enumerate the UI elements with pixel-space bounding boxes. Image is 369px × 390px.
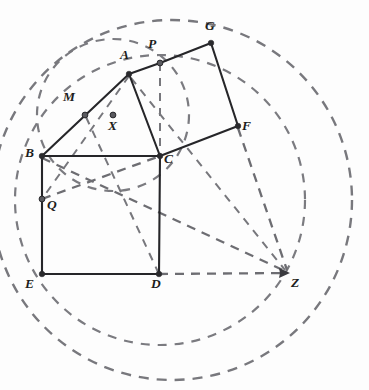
dot-P <box>157 60 163 66</box>
dot-F <box>235 123 241 129</box>
dot-Q <box>39 196 45 202</box>
dashed-B-Z <box>42 158 285 271</box>
dashed-A-Q <box>42 76 129 199</box>
label-point-P: P <box>148 37 156 51</box>
solid-edges-group <box>42 43 238 274</box>
label-point-C: C <box>164 152 173 166</box>
label-point-B: B <box>25 146 34 160</box>
geometry-figure: A B C D E F G M P Q X Z <box>0 0 369 390</box>
dot-A <box>126 71 132 77</box>
segment-A-P <box>129 63 160 74</box>
segment-G-F <box>211 43 238 126</box>
segment-P-G <box>160 43 211 63</box>
dashed-Q-C <box>42 156 160 199</box>
dot-E <box>39 271 45 277</box>
segment-D-C <box>159 156 160 274</box>
dot-G <box>208 40 214 46</box>
vertex-dots-group <box>39 40 241 277</box>
dashed-D-Z <box>159 273 286 274</box>
label-point-Q: Q <box>47 198 57 212</box>
label-point-M: M <box>63 90 75 104</box>
label-point-A: A <box>120 48 129 62</box>
dot-C <box>157 153 163 159</box>
dashed-F-Z <box>238 128 287 270</box>
dashed-A-Z <box>131 78 285 270</box>
dot-M <box>82 112 88 118</box>
label-point-X: X <box>108 119 117 133</box>
label-point-G: G <box>205 19 215 33</box>
segment-A-C <box>129 74 160 156</box>
label-point-D: D <box>151 277 161 291</box>
geometry-canvas <box>0 0 369 390</box>
label-point-E: E <box>25 277 34 291</box>
label-point-Z: Z <box>291 276 299 290</box>
dot-B <box>39 153 45 159</box>
dashed-segments-group <box>42 63 287 274</box>
label-point-F: F <box>242 119 251 133</box>
